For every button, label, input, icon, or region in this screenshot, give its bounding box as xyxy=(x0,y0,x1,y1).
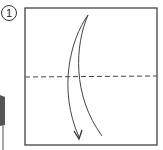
previous-figure-fragment xyxy=(0,95,5,150)
diagram-canvas xyxy=(0,0,163,150)
